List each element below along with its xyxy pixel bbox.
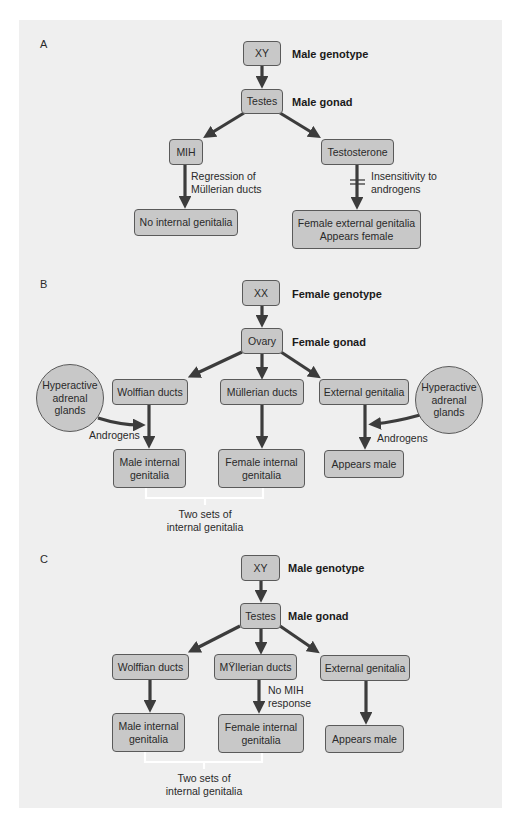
genotype-box-xy: XY <box>241 555 280 581</box>
gonad-label: Male gonad <box>288 610 349 623</box>
mih-text: MIH <box>176 146 195 159</box>
female-external-genitalia-box: Female external genitaliaAppears female <box>292 210 421 249</box>
annotation-line: Müllerian ducts <box>191 183 262 196</box>
appears-male-box: Appears male <box>325 725 404 753</box>
outcome-text: Female internal <box>225 721 297 734</box>
duct-text: External genitalia <box>324 386 405 399</box>
genotype-label: Female genotype <box>292 288 382 301</box>
wolffian-ducts-box: Wolffian ducts <box>112 654 189 680</box>
testosterone-text: Testosterone <box>327 146 387 159</box>
adrenal-glands-right-circle: Hyperactiveadrenalglands <box>415 366 483 434</box>
external-genitalia-box: External genitalia <box>319 379 409 405</box>
panel-label-b: B <box>40 278 47 290</box>
bracket-line: Two sets of <box>166 772 242 785</box>
mullerian-ducts-box: MŸllerian ducts <box>214 654 297 680</box>
genotype-label: Male genotype <box>292 48 368 61</box>
genotype-box-text: XY <box>255 47 269 60</box>
panel-label-a: A <box>40 38 47 50</box>
insensitivity-annotation: Insensitivity toandrogens <box>371 170 437 195</box>
adrenal-glands-left-circle: Hyperactiveadrenalglands <box>36 364 104 432</box>
testosterone-box: Testosterone <box>321 139 394 165</box>
annotation-line: response <box>268 697 311 710</box>
duct-text: External genitalia <box>325 662 406 675</box>
external-genitalia-box: External genitalia <box>320 655 410 681</box>
genotype-box-xy: XY <box>243 41 281 66</box>
no-mih-response-annotation: No MIHresponse <box>268 684 311 709</box>
outcome-text: genitalia <box>129 733 168 746</box>
gonad-box-text: Testes <box>247 95 277 108</box>
outcome-text: Female internal <box>225 456 297 469</box>
no-internal-genitalia-box: No internal genitalia <box>134 209 238 236</box>
bracket-line: Two sets of <box>167 508 243 521</box>
regression-annotation: Regression ofMüllerian ducts <box>191 170 262 195</box>
two-sets-label: Two sets ofinternal genitalia <box>166 772 242 797</box>
gonad-label: Male gonad <box>292 96 353 109</box>
circle-text: glands <box>55 404 86 417</box>
outcome-text: genitalia <box>242 469 281 482</box>
outcome-text: Male internal <box>118 720 178 733</box>
outcome-text: Appears female <box>320 230 394 243</box>
circle-text: adrenal <box>431 394 466 407</box>
outcome-text: Appears male <box>332 458 397 471</box>
circle-text: Hyperactive <box>421 381 476 394</box>
gonad-box-text: Ovary <box>248 335 276 348</box>
genotype-box-text: XY <box>253 562 267 575</box>
male-internal-genitalia-box: Male internalgenitalia <box>112 713 185 752</box>
duct-text: Wolffian ducts <box>117 386 183 399</box>
genotype-box-text: XX <box>254 287 268 300</box>
bracket-line: internal genitalia <box>166 785 242 798</box>
circle-text: adrenal <box>52 392 87 405</box>
female-internal-genitalia-box: Female internalgenitalia <box>218 714 304 753</box>
outcome-text: Appears male <box>332 733 397 746</box>
duct-text: MŸllerian ducts <box>220 661 292 674</box>
annotation-line: No MIH <box>268 684 311 697</box>
wolffian-ducts-box: Wolffian ducts <box>112 379 188 405</box>
androgens-label-right: Androgens <box>377 432 428 445</box>
genotype-box-xx: XX <box>242 280 280 306</box>
mullerian-ducts-box: Müllerian ducts <box>220 379 304 405</box>
annotation-line: androgens <box>371 183 437 196</box>
bracket-line: internal genitalia <box>167 521 243 534</box>
annotation-line: Insensitivity to <box>371 170 437 183</box>
duct-text: Müllerian ducts <box>227 386 298 399</box>
outcome-text: genitalia <box>130 469 169 482</box>
panel-label-c: C <box>40 553 48 565</box>
outcome-text: No internal genitalia <box>140 216 233 229</box>
two-sets-label: Two sets ofinternal genitalia <box>167 508 243 533</box>
duct-text: Wolffian ducts <box>118 661 184 674</box>
androgens-label-left: Androgens <box>89 429 140 442</box>
genotype-label: Male genotype <box>288 562 364 575</box>
gonad-box-ovary: Ovary <box>241 328 283 354</box>
mih-box: MIH <box>169 139 203 165</box>
outcome-text: Female external genitalia <box>298 217 415 230</box>
gonad-box-testes: Testes <box>240 603 281 629</box>
circle-text: glands <box>434 406 465 419</box>
male-internal-genitalia-box: Male internalgenitalia <box>113 449 186 488</box>
gonad-label: Female gonad <box>292 336 366 349</box>
outcome-text: Male internal <box>119 456 179 469</box>
circle-text: Hyperactive <box>42 379 97 392</box>
female-internal-genitalia-box: Female internalgenitalia <box>218 449 305 488</box>
gonad-box-text: Testes <box>245 610 275 623</box>
outcome-text: genitalia <box>241 734 280 747</box>
annotation-line: Regression of <box>191 170 262 183</box>
appears-male-box: Appears male <box>324 450 404 478</box>
gonad-box-testes: Testes <box>241 89 283 114</box>
